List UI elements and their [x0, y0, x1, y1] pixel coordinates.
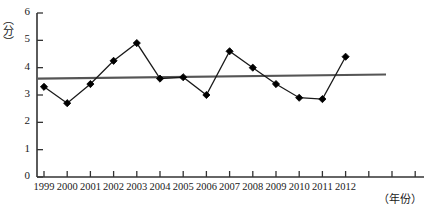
x-axis-tick-label: 2011: [309, 181, 335, 192]
x-axis-tick-label: 2006: [193, 181, 219, 192]
x-axis-tick-label: 2008: [240, 181, 266, 192]
x-axis-tick-label: 2001: [77, 181, 103, 192]
x-axis-tick-label: 2012: [333, 181, 359, 192]
chart-axes: [37, 13, 424, 177]
x-axis-tick-label: 2010: [286, 181, 312, 192]
y-axis-tick-label: 1: [16, 142, 30, 154]
x-axis-tick-label: 2004: [147, 181, 173, 192]
x-axis-tick-label: 2009: [263, 181, 289, 192]
y-axis-tick-label: 4: [16, 60, 30, 72]
y-axis-ticks: [37, 13, 43, 177]
y-axis-tick-label: 5: [16, 32, 30, 44]
x-axis-tick-label: 2003: [124, 181, 150, 192]
x-axis-tick-label: 2000: [54, 181, 80, 192]
data-point-marker: [342, 53, 349, 60]
x-axis-tick-label: 2007: [217, 181, 243, 192]
data-point-marker: [319, 96, 326, 103]
x-axis-tick-label: 2002: [101, 181, 127, 192]
y-axis-tick-label: 6: [16, 5, 30, 17]
x-axis-ticks: [44, 171, 415, 177]
y-axis-tick-label: 2: [16, 114, 30, 126]
x-axis-tick-label: 1999: [31, 181, 57, 192]
y-axis-tick-label: 0: [16, 169, 30, 181]
x-axis-tick-label: 2005: [170, 181, 196, 192]
y-axis-tick-label: 3: [16, 87, 30, 99]
data-series-line: [44, 43, 346, 103]
data-point-marker: [296, 94, 303, 101]
line-chart: （分） （年份） 0123456 19992000200120022003200…: [0, 0, 438, 213]
data-point-marker: [156, 75, 163, 82]
data-point-markers: [40, 39, 349, 106]
series-polyline: [44, 43, 346, 103]
